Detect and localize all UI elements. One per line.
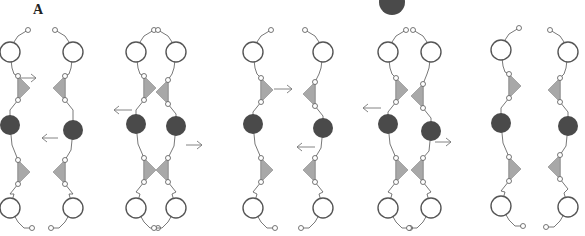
triangle-icon	[18, 160, 30, 184]
triangle-icon	[411, 158, 423, 182]
filled-circle-icon	[378, 114, 398, 134]
joint-knob-icon	[16, 98, 21, 103]
open-circle-icon	[126, 42, 146, 62]
open-circle-icon	[491, 40, 511, 60]
open-circle-icon	[0, 198, 20, 218]
joint-knob-icon	[166, 156, 171, 161]
end-knob-icon	[269, 28, 274, 33]
end-knob-icon	[404, 28, 409, 33]
open-circle-icon	[126, 198, 146, 218]
triangle-icon	[144, 76, 156, 100]
open-circle-icon	[491, 196, 511, 216]
joint-knob-icon	[16, 182, 21, 187]
joint-knob-icon	[259, 156, 264, 161]
open-circle-icon	[421, 42, 441, 62]
open-circle-icon	[243, 42, 263, 62]
joint-knob-icon	[558, 177, 563, 182]
joint-knob-icon	[558, 153, 563, 158]
joint-knob-icon	[313, 180, 318, 185]
joint-knob-icon	[394, 76, 399, 81]
open-circle-icon	[558, 197, 578, 217]
open-circle-icon	[166, 42, 186, 62]
triangle-icon	[156, 158, 168, 182]
legend-filled-circle	[379, 0, 405, 15]
joint-knob-icon	[313, 104, 318, 109]
open-circle-icon	[63, 42, 83, 62]
triangle-icon	[396, 78, 408, 102]
joint-knob-icon	[142, 98, 147, 103]
joint-knob-icon	[507, 179, 512, 184]
joint-knob-icon	[16, 158, 21, 163]
end-knob-icon	[273, 226, 278, 231]
open-circle-icon	[378, 42, 398, 62]
strand-diagram	[0, 0, 585, 236]
joint-knob-icon	[166, 180, 171, 185]
joint-knob-icon	[507, 155, 512, 160]
filled-circle-icon	[0, 115, 20, 135]
open-circle-icon	[63, 198, 83, 218]
filled-circle-icon	[63, 120, 83, 140]
end-knob-icon	[299, 226, 304, 231]
open-circle-icon	[558, 42, 578, 62]
end-knob-icon	[407, 226, 412, 231]
end-knob-icon	[152, 226, 157, 231]
filled-circle-icon	[313, 118, 333, 138]
joint-knob-icon	[421, 156, 426, 161]
triangle-icon	[509, 74, 521, 98]
end-knob-icon	[30, 226, 35, 231]
joint-knob-icon	[63, 98, 68, 103]
filled-circle-icon	[126, 114, 146, 134]
joint-knob-icon	[142, 74, 147, 79]
joint-knob-icon	[142, 180, 147, 185]
joint-knob-icon	[558, 100, 563, 105]
open-circle-icon	[0, 42, 20, 62]
triangle-icon	[509, 157, 521, 181]
open-circle-icon	[243, 198, 263, 218]
end-knob-icon	[303, 28, 308, 33]
end-knob-icon	[26, 28, 31, 33]
joint-knob-icon	[507, 72, 512, 77]
end-knob-icon	[156, 28, 161, 33]
joint-knob-icon	[421, 82, 426, 87]
joint-knob-icon	[421, 180, 426, 185]
joint-knob-icon	[259, 180, 264, 185]
joint-knob-icon	[313, 80, 318, 85]
joint-knob-icon	[507, 96, 512, 101]
triangle-icon	[411, 84, 423, 108]
open-circle-icon	[313, 42, 333, 62]
joint-knob-icon	[394, 156, 399, 161]
filled-circle-icon	[491, 113, 511, 133]
triangle-icon	[144, 158, 156, 182]
joint-knob-icon	[63, 158, 68, 163]
triangle-icon	[261, 158, 273, 182]
open-circle-icon	[378, 198, 398, 218]
joint-knob-icon	[394, 100, 399, 105]
filled-circle-icon	[243, 114, 263, 134]
joint-knob-icon	[259, 100, 264, 105]
joint-knob-icon	[16, 74, 21, 79]
triangle-icon	[261, 78, 273, 102]
triangle-icon	[53, 76, 65, 100]
end-knob-icon	[521, 224, 526, 229]
joint-knob-icon	[166, 78, 171, 83]
filled-circle-icon	[558, 116, 578, 136]
filled-circle-icon	[166, 116, 186, 136]
end-knob-icon	[544, 225, 549, 230]
triangle-icon	[396, 158, 408, 182]
triangle-icon	[548, 155, 560, 179]
open-circle-icon	[313, 198, 333, 218]
joint-knob-icon	[63, 74, 68, 79]
joint-knob-icon	[313, 156, 318, 161]
end-knob-icon	[53, 28, 58, 33]
end-knob-icon	[517, 26, 522, 31]
triangle-icon	[548, 78, 560, 102]
filled-circle-icon	[421, 121, 441, 141]
end-knob-icon	[49, 226, 54, 231]
joint-knob-icon	[421, 106, 426, 111]
joint-knob-icon	[558, 76, 563, 81]
joint-knob-icon	[63, 182, 68, 187]
triangle-icon	[156, 80, 168, 104]
triangle-icon	[303, 158, 315, 182]
end-knob-icon	[548, 28, 553, 33]
joint-knob-icon	[259, 76, 264, 81]
